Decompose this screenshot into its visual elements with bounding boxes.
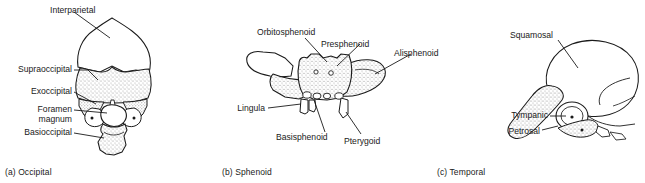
- caption-sphenoid: (b) Sphenoid: [222, 167, 272, 177]
- petrosal-foramen: [581, 129, 584, 132]
- panel-temporal: Squamosal Tympanic Petrosal (c) Temporal: [430, 0, 645, 183]
- condylar-foramen-left: [91, 117, 94, 120]
- optic-foramen-right: [329, 71, 334, 76]
- label-basisphenoid: Basisphenoid: [276, 132, 328, 143]
- label-basioccipital: Basioccipital: [0, 127, 72, 138]
- leader-basioccipital: [74, 133, 104, 138]
- label-magnum: magnum: [0, 114, 72, 125]
- panel-occipital: Interparietal Supraoccipital Exoccipital…: [0, 0, 215, 183]
- braincase-outline: [546, 40, 638, 116]
- label-supraoccipital: Supraoccipital: [0, 64, 72, 75]
- label-orbitosphenoid: Orbitosphenoid: [257, 27, 315, 38]
- label-tympanic: Tympanic: [476, 110, 548, 121]
- interparietal-outline: [78, 18, 151, 73]
- label-interparietal: Interparietal: [50, 5, 95, 16]
- lingula-process: [300, 99, 308, 114]
- caption-temporal: (c) Temporal: [437, 167, 485, 177]
- leader-lingula: [268, 104, 301, 108]
- supraoccipital-region: [76, 67, 151, 103]
- label-exoccipital: Exoccipital: [0, 86, 72, 97]
- leader-squamosal: [558, 40, 578, 68]
- basioccipital-region: [98, 124, 127, 155]
- label-presphenoid: Presphenoid: [321, 39, 369, 50]
- label-pterygoid: Pterygoid: [344, 136, 380, 147]
- label-foramen: Foramen: [0, 104, 72, 115]
- leader-basisphenoid: [314, 100, 325, 132]
- leader-pterygoid: [346, 112, 361, 134]
- basisphenoid-foramen-1: [303, 92, 311, 98]
- label-squamosal: Squamosal: [510, 30, 553, 41]
- pterygoid-process-right: [339, 98, 348, 118]
- orbitosphenoid-left-wing: [247, 51, 293, 76]
- external-auditory-meatus: [570, 115, 573, 118]
- leader-petrosal: [542, 126, 558, 130]
- skull-detail-line: [613, 96, 635, 106]
- condylar-foramen-right: [133, 117, 136, 120]
- styloid-process: [596, 126, 610, 137]
- foramen-magnum-opening: [101, 105, 127, 127]
- anatomical-figure: Interparietal Supraoccipital Exoccipital…: [0, 0, 645, 183]
- panel-sphenoid: Orbitosphenoid Presphenoid Alisphenoid L…: [215, 0, 430, 183]
- basisphenoid-foramen-2: [313, 93, 321, 99]
- basisphenoid-foramen-3: [323, 93, 330, 99]
- label-petrosal: Petrosal: [468, 126, 540, 137]
- label-lingula: Lingula: [215, 103, 265, 114]
- optic-foramen-left: [314, 70, 318, 74]
- caption-occipital: (a) Occipital: [5, 167, 52, 177]
- paroccipital-process: [610, 132, 626, 140]
